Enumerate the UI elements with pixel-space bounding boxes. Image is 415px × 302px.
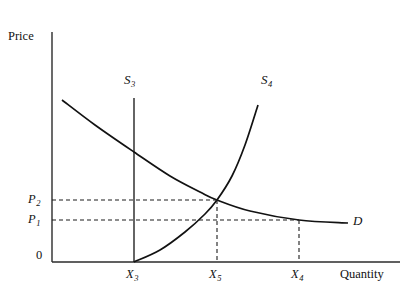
s3-base: S [124,72,131,87]
supply-curve-s3-label: S3 [124,73,135,86]
demand-curve-label: D [353,214,362,227]
s4-subscript: 4 [268,79,272,89]
chart-canvas [0,0,415,302]
quantity-tick-x5: X5 [209,268,221,281]
p1-base: P [28,212,36,226]
x3-subscript: 3 [134,273,138,283]
supply-curve-s4-label: S4 [261,73,272,86]
x3-base: X [126,267,134,281]
s4-base: S [261,72,268,87]
demand-curve [62,100,348,223]
price-tick-p2: P2 [28,193,40,206]
quantity-tick-x4: X4 [291,268,303,281]
origin-label: 0 [36,249,42,262]
p2-subscript: 2 [36,198,40,208]
supply-curve-s4 [134,105,258,262]
quantity-tick-x3: X3 [126,268,138,281]
s3-subscript: 3 [131,79,135,89]
p1-subscript: 1 [36,218,40,228]
x4-subscript: 4 [299,273,303,283]
x5-base: X [209,267,217,281]
x4-base: X [291,267,299,281]
y-axis-title: Price [8,30,34,43]
p2-base: P [28,192,36,206]
x-axis-title: Quantity [340,268,384,281]
x5-subscript: 5 [217,273,221,283]
price-tick-p1: P1 [28,213,40,226]
supply-demand-figure: Price Quantity 0 S3 S4 D P2 P1 X3 X5 X4 [0,0,415,302]
